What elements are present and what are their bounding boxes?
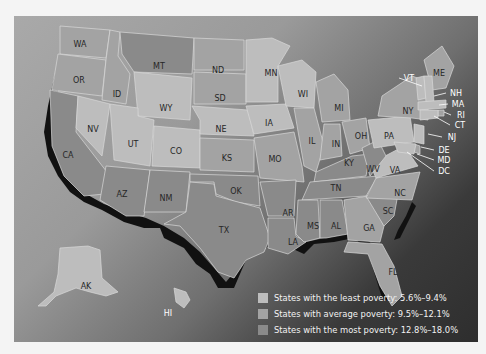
legend-swatch-least — [258, 293, 268, 303]
state-label-nc: NC — [394, 189, 406, 198]
state-label-tx: TX — [218, 226, 230, 235]
state-label-ak: AK — [81, 282, 92, 291]
legend-swatch-most — [258, 325, 268, 335]
state-label-ut: UT — [128, 140, 139, 149]
state-label-wy: WY — [160, 104, 173, 113]
state-label-ar: AR — [282, 209, 293, 218]
legend-item-most: States with the most poverty: 12.8%–18.0… — [258, 322, 458, 338]
callout-label-nh: NH — [450, 89, 462, 98]
state-ms — [296, 200, 320, 242]
callout-label-nj: NJ — [448, 133, 456, 142]
callout-line-md — [417, 154, 434, 160]
state-label-il: IL — [309, 137, 316, 146]
callout-line-ct — [434, 116, 450, 125]
state-label-id: ID — [113, 90, 122, 99]
callout-label-md: MD — [437, 156, 450, 165]
state-label-wv: WV — [366, 165, 380, 174]
state-label-va: VA — [390, 166, 401, 175]
callout-label-ma: MA — [452, 100, 465, 109]
callout-line-nh — [434, 93, 446, 96]
state-label-mn: MN — [265, 69, 278, 78]
state-label-ga: GA — [363, 224, 375, 233]
state-label-fl: FL — [388, 268, 398, 277]
state-label-mt: MT — [153, 62, 165, 71]
state-ct — [420, 110, 438, 120]
state-label-nv: NV — [87, 125, 99, 134]
callout-label-ct: CT — [455, 121, 466, 130]
state-label-pa: PA — [384, 132, 394, 141]
state-mi — [316, 74, 350, 122]
state-label-ia: IA — [265, 119, 273, 128]
state-label-ms: MS — [307, 222, 319, 231]
state-label-oh: OH — [355, 132, 367, 141]
state-ri — [438, 110, 444, 116]
state-label-sc: SC — [383, 207, 394, 216]
state-al — [320, 200, 348, 238]
state-label-nm: NM — [160, 194, 173, 203]
legend-item-least: States with the least poverty: 5.6%–9.4% — [258, 290, 458, 306]
state-label-tn: TN — [330, 184, 342, 193]
state-or — [52, 54, 106, 96]
state-label-ks: KS — [222, 154, 232, 163]
state-label-mi: MI — [334, 104, 343, 113]
poverty-map: WAORCANVIDMTWYUTCOAZNMNDSDNEKSOKTXMNIAMO… — [14, 16, 478, 342]
state-label-la: LA — [288, 238, 299, 247]
callout-line-ri — [444, 112, 451, 115]
state-label-sd: SD — [214, 94, 225, 103]
state-nj — [414, 124, 424, 144]
state-label-hi: HI — [164, 309, 172, 318]
state-label-ne: NE — [215, 125, 226, 134]
state-label-mo: MO — [268, 155, 281, 164]
state-label-ca: CA — [62, 151, 74, 160]
state-label-me: ME — [433, 69, 445, 78]
state-nm — [144, 170, 190, 212]
legend-swatch-average — [258, 309, 268, 319]
state-label-al: AL — [331, 222, 341, 231]
state-label-ky: KY — [344, 159, 354, 168]
state-label-wi: WI — [298, 90, 308, 99]
callout-label-ri: RI — [457, 111, 465, 120]
legend-label-average: States with average poverty: 9.5%–12.1% — [274, 309, 450, 319]
state-label-in: IN — [332, 140, 340, 149]
callout-line-nj — [428, 134, 442, 137]
state-nh — [424, 76, 434, 102]
state-label-or: OR — [73, 76, 85, 85]
callout-line-de — [421, 147, 434, 150]
state-label-az: AZ — [117, 190, 128, 199]
state-hi — [174, 288, 190, 308]
legend: States with the least poverty: 5.6%–9.4%… — [258, 290, 458, 338]
state-wi — [278, 60, 316, 108]
legend-label-least: States with the least poverty: 5.6%–9.4% — [274, 293, 447, 303]
state-label-wa: WA — [74, 40, 87, 49]
state-label-co: CO — [170, 147, 182, 156]
callout-label-dc: DC — [438, 167, 450, 176]
legend-item-average: States with average poverty: 9.5%–12.1% — [258, 306, 458, 322]
state-label-ok: OK — [230, 187, 242, 196]
state-ak — [38, 246, 118, 306]
callout-label-vt: VT — [404, 74, 414, 83]
state-label-ny: NY — [403, 107, 414, 116]
callout-label-de: DE — [438, 146, 449, 155]
legend-label-most: States with the most poverty: 12.8%–18.0… — [274, 325, 458, 335]
state-label-nd: ND — [212, 66, 224, 75]
